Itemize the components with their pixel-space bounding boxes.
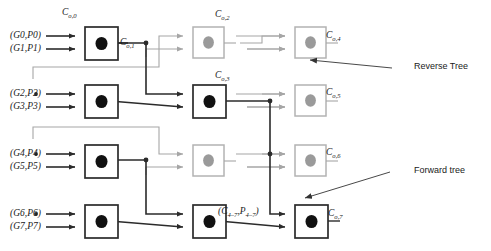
wire-n9-out <box>219 221 285 227</box>
annotation-reverse-tree: Reverse Tree <box>414 62 468 71</box>
wire-bus-to-n8 <box>146 167 183 175</box>
input-label-2: (G2,P2) <box>10 89 41 99</box>
input-label-1: (G1,P1) <box>10 44 41 54</box>
input-label-7: (G7,P7) <box>10 222 41 232</box>
carry-label-c07: Co,7 <box>328 209 343 220</box>
carry-label-c04: Co,4 <box>326 31 341 42</box>
node-3[interactable] <box>193 85 226 118</box>
input-label-3: (G3,P3) <box>10 102 41 112</box>
node-2[interactable] <box>193 27 236 58</box>
input-label-4: (G4,P4) <box>10 149 41 159</box>
group-carry-sub1: 4–7 <box>228 211 238 218</box>
carry-label-c01: Co,1 <box>120 38 135 49</box>
input-label-0: (G0,P0) <box>10 31 41 41</box>
carry-label-c04-sub: o,4 <box>332 35 340 42</box>
carry-label-c05: Co,5 <box>326 88 341 99</box>
carry-label-c07-sub: o,7 <box>334 213 342 220</box>
wire-n0-to-n2 <box>146 49 183 57</box>
node-7[interactable] <box>85 205 118 238</box>
group-carry-sub2: 4–7 <box>246 211 256 218</box>
node-1[interactable] <box>85 85 118 118</box>
carry-label-c05-sub: o,5 <box>332 92 340 99</box>
group-carry-open: (C <box>218 206 228 216</box>
group-carry-close: ) <box>255 206 258 216</box>
annotation-leaders <box>305 60 392 198</box>
carry-label-c03-sub: o,3 <box>221 75 229 82</box>
input-label-6: (G6,P6) <box>10 209 41 219</box>
rail-c02-to-n4 <box>240 36 285 43</box>
node-8[interactable] <box>193 145 236 176</box>
annotation-forward-tree: Forward tree <box>414 166 465 175</box>
node-6[interactable] <box>85 145 118 178</box>
wire-n7-out <box>110 221 183 227</box>
group-carry-mid: ,P <box>237 206 245 216</box>
carry-label-c02: Co,2 <box>215 10 230 21</box>
junction-dot-n3 <box>268 99 273 104</box>
leader-reverse-tree <box>310 60 392 68</box>
input-label-5: (G5,P5) <box>10 162 41 172</box>
carry-label-c00: Co,0 <box>62 8 77 19</box>
carry-label-c00-sub: o,0 <box>68 12 76 19</box>
group-carry-label: (C4–7,P4–7) <box>218 207 259 218</box>
wire-n6-out <box>110 160 183 214</box>
junction-dot-n6 <box>144 158 149 163</box>
figure-canvas: (G0,P0) (G1,P1) (G2,P2) (G3,P3) (G4,P4) … <box>0 0 491 251</box>
wire-n0-out <box>110 43 183 94</box>
carry-label-c03: Co,3 <box>215 71 230 82</box>
dark-trunk <box>270 101 285 214</box>
carry-label-c06: Co,6 <box>326 148 341 159</box>
junction-dot-n0 <box>144 41 149 46</box>
wire-n1-out <box>110 101 183 107</box>
carry-label-c02-sub: o,2 <box>221 14 229 21</box>
carry-label-c06-sub: o,6 <box>332 152 340 159</box>
carry-label-c01-sub: o,1 <box>126 42 134 49</box>
junction-dot-right-mid <box>268 152 273 157</box>
